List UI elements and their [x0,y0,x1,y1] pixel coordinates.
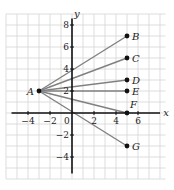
coordinate-plane: xy 0−4−22468642−2−4 ABCDEFG [0,0,174,190]
y-axis-label: y [73,8,80,19]
x-tick-label: 4 [113,116,119,126]
origin-label: 0 [64,116,70,126]
y-tick-label: −2 [56,130,69,140]
point-B [125,34,130,39]
point-label-A: A [26,86,34,97]
x-tick-label: 2 [91,116,97,126]
point-label-C: C [132,53,140,64]
point-E [125,89,130,94]
point-G [125,144,130,149]
point-D [125,78,130,83]
y-tick-label: 2 [63,86,69,96]
point-label-F: F [129,99,138,110]
x-axis-label: x [163,107,169,118]
y-tick-label: 6 [63,42,69,52]
y-tick-label: −4 [56,152,70,162]
point-F [125,111,130,116]
y-tick-label: 4 [63,64,69,74]
x-tick-label: −2 [43,116,56,126]
point-label-G: G [132,141,140,152]
y-tick-label: 8 [63,20,69,30]
point-C [125,56,130,61]
x-tick-label: −4 [21,116,35,126]
grid-lines [6,14,166,179]
point-label-B: B [131,31,139,42]
point-label-E: E [131,86,140,97]
point-label-D: D [131,75,140,86]
x-tick-label: 6 [135,116,141,126]
point-A [37,89,42,94]
